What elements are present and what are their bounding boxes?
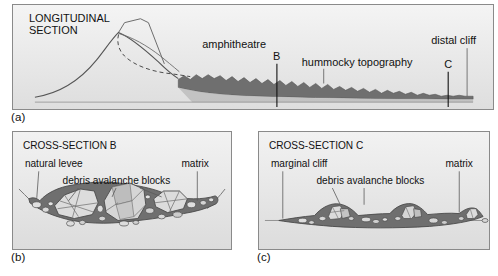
cross-section-c-drawing: CROSS-SECTION C marginal cliff matrix de… [259, 132, 489, 249]
marker-label-b: B [273, 50, 280, 62]
panel-longitudinal-section: LONGITUDINAL SECTION amphitheatre hummoc… [12, 4, 494, 110]
label-hummocky-topography: hummocky topography [302, 56, 413, 68]
cross-section-b-drawing: CROSS-SECTION B natural levee matrix deb… [13, 132, 231, 249]
label-distal-cliff: distal cliff [431, 34, 477, 46]
panel-c-title: CROSS-SECTION C [269, 140, 363, 151]
label-debris-blocks-c: debris avalanche blocks [317, 175, 425, 186]
panel-cross-section-b: CROSS-SECTION B natural levee matrix deb… [12, 131, 232, 250]
figure-label-a: (a) [11, 111, 25, 123]
panel-cross-section-c: CROSS-SECTION C marginal cliff matrix de… [258, 131, 490, 250]
label-debris-blocks-b: debris avalanche blocks [63, 175, 171, 186]
panel-b-title: CROSS-SECTION B [23, 140, 117, 151]
panel-a-title-line1: LONGITUDINAL [29, 12, 110, 24]
label-amphitheatre: amphitheatre [202, 38, 266, 50]
label-matrix-b: matrix [181, 158, 208, 169]
figure-label-b: (b) [11, 251, 25, 263]
figure-label-c: (c) [257, 251, 271, 263]
figure-debris-avalanche-sections: LONGITUDINAL SECTION amphitheatre hummoc… [0, 0, 498, 276]
label-matrix-c: matrix [445, 158, 473, 169]
label-marginal-cliff: marginal cliff [271, 158, 328, 169]
panel-a-title-line2: SECTION [29, 25, 78, 37]
label-natural-levee: natural levee [25, 158, 83, 169]
longitudinal-section-drawing: LONGITUDINAL SECTION amphitheatre hummoc… [13, 5, 493, 109]
marker-label-c: C [444, 58, 452, 70]
